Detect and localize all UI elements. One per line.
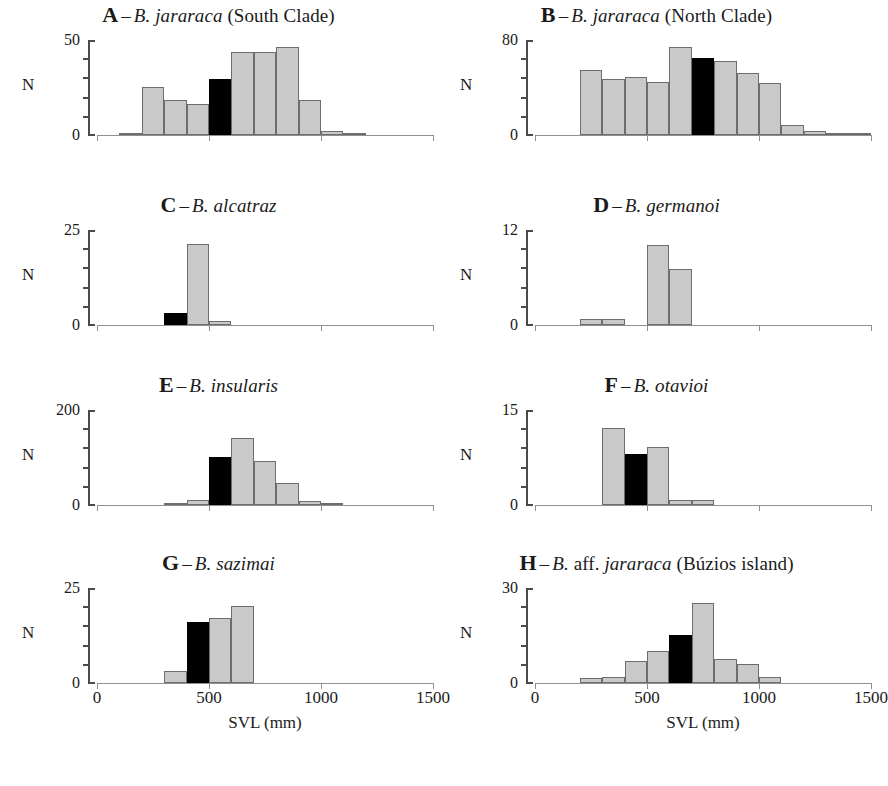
histogram-bar [164,671,186,683]
y-axis-title: N [460,446,472,463]
panel-title-a: A–B. jararaca (South Clade) [0,4,437,27]
y-axis-tick [83,645,89,647]
histogram-bar [164,313,186,325]
histogram-bar [254,52,276,135]
y-axis-tick [83,267,89,269]
histogram-bar [714,659,736,683]
x-axis-line [97,135,433,136]
panel-b: B–B. jararaca (North Clade)800N [438,0,875,196]
bar-series [535,230,871,325]
y-axis-tick [83,248,89,250]
y-axis-label-min: 0 [14,675,80,691]
x-axis-tick [535,325,536,331]
y-axis-tick [521,447,527,449]
y-axis-cap [88,40,95,42]
x-axis-tick-label: 0 [531,689,540,707]
panel-title-aff: aff. [574,553,605,574]
y-axis-label-min: 0 [14,127,80,143]
y-axis-cap [88,324,95,326]
histogram-bar [321,503,343,505]
plot-area [535,410,871,506]
panel-title-species: B. otavioi [634,375,709,396]
panel-title-qualifier: (North Clade) [660,5,772,26]
histogram-bar [849,133,871,135]
x-axis-tick [535,505,536,511]
y-axis-tick [521,306,527,308]
y-axis-line [88,40,90,136]
y-axis-title: N [460,76,472,93]
panel-title-dash: – [618,375,634,396]
x-axis-tick [433,135,434,141]
y-axis-cap [526,504,533,506]
histogram-bar [759,83,781,135]
histogram-bar [737,664,759,683]
panel-letter: C [160,192,176,217]
panel-title-e: E–B. insularis [0,374,437,397]
histogram-bar [209,457,231,505]
panel-title-d: D–B. germanoi [438,194,875,217]
y-axis-tick [83,58,89,60]
histogram-bar [669,500,691,505]
y-axis-tick [83,77,89,79]
y-axis-tick [521,287,527,289]
y-axis-label-max: 25 [14,580,80,596]
y-axis-tick [521,116,527,118]
histogram-bar [209,618,231,683]
x-axis-tick [871,505,872,511]
histogram-bar [209,79,231,135]
histogram-bar [142,87,164,135]
histogram-bar [669,635,691,683]
panel-title-species: jararaca [604,553,671,574]
y-axis-title: N [460,266,472,283]
panel-title-f: F–B. otavioi [438,374,875,397]
x-axis-tick [97,325,98,331]
x-axis-tick [321,505,322,511]
plot-area [97,40,433,136]
y-axis-label-max: 50 [14,32,80,48]
x-axis-tick [759,135,760,141]
panel-e: E–B. insularis2000N [0,370,437,566]
y-axis-cap [526,230,533,232]
y-axis-cap [526,588,533,590]
x-axis-tick [647,135,648,141]
histogram-bar [254,461,276,505]
panel-h: H–B. aff. jararaca (Búzios island)300N05… [438,548,875,744]
x-axis-tick-label: 500 [196,689,222,707]
bar-series [535,588,871,683]
y-axis-label-min: 0 [452,127,518,143]
plot-area [97,410,433,506]
histogram-bar [737,73,759,135]
panel-title-dash: – [176,195,192,216]
histogram-bar [299,501,321,505]
y-axis-title: N [22,446,34,463]
panel-letter: B [541,2,556,27]
histogram-bar [580,319,602,325]
histogram-bar [826,133,848,135]
y-axis-tick [521,428,527,430]
bar-series [535,410,871,505]
panel-title-c: C–B. alcatraz [0,194,437,217]
histogram-bar [647,245,669,325]
histogram-bar [164,503,186,505]
histogram-bar [714,61,736,135]
y-axis-cap [526,682,533,684]
y-axis-cap [88,230,95,232]
plot-area [535,230,871,326]
x-axis-tick [535,135,536,141]
histogram-bar [669,269,691,325]
panel-title-dash: – [537,553,553,574]
histogram-bar [625,661,647,683]
y-axis-line [526,588,528,684]
x-axis-tick [209,505,210,511]
y-axis-tick [83,287,89,289]
x-axis-tick-label: 1000 [304,689,338,707]
histogram-bar [580,70,602,135]
y-axis-tick [83,428,89,430]
y-axis-tick [83,116,89,118]
histogram-bar [231,52,253,135]
plot-area [535,588,871,684]
histogram-bar [164,100,186,135]
x-axis-line [535,505,871,506]
x-axis-tick [321,135,322,141]
